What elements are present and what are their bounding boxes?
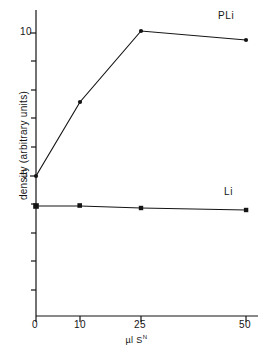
plot-area [0,0,273,351]
y-axis-title: density (arbitrary units) [18,71,29,221]
x-tick-label-50: 50 [239,319,251,330]
series-line-pli [36,31,246,176]
y-tick-label-10: 10 [20,26,32,37]
series-label-li: Li [224,186,233,197]
series-markers-li [33,203,248,212]
x-axis-title-superscript: N [143,334,148,340]
series-label-pli: PLi [218,10,234,21]
x-tick-label-25: 25 [134,319,146,330]
chart-figure: 10 5 0 10 25 50 PLi Li density (arbitrar… [0,0,273,351]
x-axis-title: µl SN [0,334,273,345]
x-axis-title-main: µl S [125,335,142,345]
series-markers-pli [34,29,248,178]
x-tick-label-0: 0 [32,319,38,330]
x-tick-label-10: 10 [74,319,86,330]
y-axis-ticks [30,33,36,290]
